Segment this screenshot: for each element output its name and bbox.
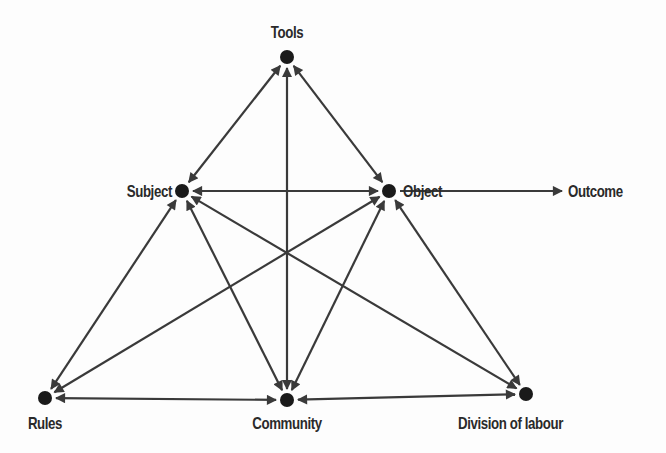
- node-label-rules: Rules: [22, 415, 69, 432]
- node-rules-dot: [38, 391, 52, 405]
- diagram-graphics: [0, 0, 666, 453]
- edge-subject-division: [192, 197, 517, 389]
- edge-tools-object: [294, 66, 383, 182]
- edge-rules-community: [56, 398, 276, 400]
- node-label-subject: Subject: [127, 183, 172, 200]
- outcome-label: Outcome: [568, 183, 623, 200]
- node-community-dot: [280, 393, 294, 407]
- node-label-object: Object: [403, 183, 442, 200]
- edge-tools-subject: [189, 66, 280, 183]
- edge-object-rules: [54, 197, 379, 393]
- edge-subject-community: [187, 201, 282, 390]
- edge-object-community: [292, 201, 384, 390]
- edge-community-division: [298, 394, 515, 399]
- activity-system-diagram: Tools Subject Object Outcome Rules Commu…: [0, 0, 666, 453]
- node-label-community: Community: [240, 415, 334, 432]
- node-division-dot: [519, 387, 533, 401]
- edge-subject-rules: [51, 200, 176, 389]
- node-tools-dot: [280, 50, 294, 64]
- node-object-dot: [382, 184, 396, 198]
- edge-object-division: [395, 200, 520, 385]
- node-label-tools: Tools: [264, 24, 311, 41]
- node-label-division-of-labour: Division of labour: [458, 415, 563, 432]
- node-subject-dot: [175, 184, 189, 198]
